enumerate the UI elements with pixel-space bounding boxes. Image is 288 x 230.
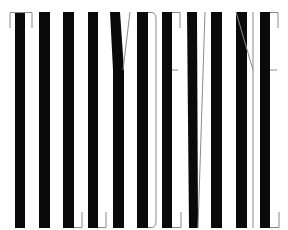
letter-d-stem (137, 12, 148, 228)
letter-v-hairline (198, 12, 205, 228)
letter-l2-stem (88, 12, 98, 228)
letter-e-arms (172, 13, 181, 228)
letter-t-stem (15, 12, 25, 228)
letter-i2-stem (211, 12, 222, 228)
wordmark-graphic (0, 0, 288, 230)
letter-v-stem (187, 12, 198, 228)
wordmark: TILLYDEVINE (0, 0, 288, 230)
letter-l-stem (63, 12, 74, 228)
letter-i-stem (39, 12, 50, 228)
letter-e2-arms (270, 13, 279, 228)
letter-e2-stem (260, 12, 270, 228)
letter-y-arm (123, 12, 130, 70)
letter-l-foot (74, 212, 82, 228)
letter-y-stem (110, 12, 124, 228)
letter-d-bowl (148, 13, 156, 228)
letter-l2-foot (98, 212, 106, 228)
letter-e-stem (162, 12, 172, 228)
